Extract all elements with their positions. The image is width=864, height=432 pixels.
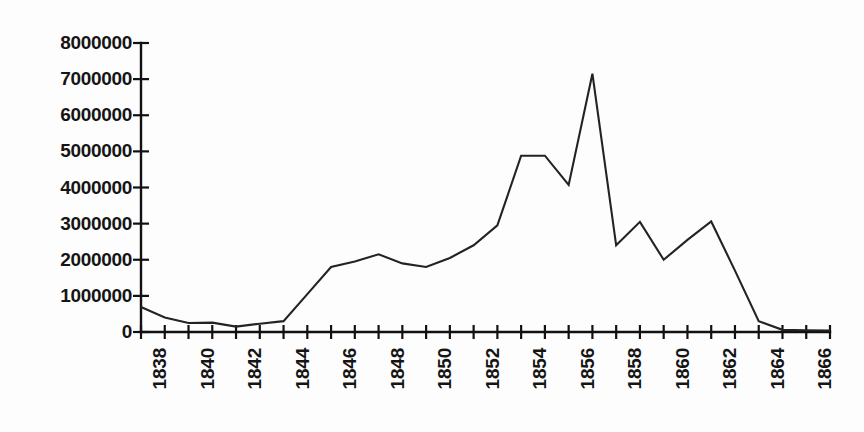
line-chart: 0100000020000003000000400000050000006000… [0, 0, 864, 432]
data-series-line [141, 74, 830, 331]
axis-lines [141, 43, 830, 332]
plot-area [0, 0, 864, 432]
